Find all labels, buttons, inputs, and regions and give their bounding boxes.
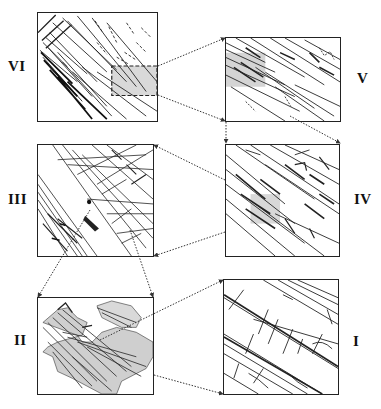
panel-label-vi: VI	[8, 58, 26, 75]
connector-vi-to-v-top	[158, 38, 225, 66]
panel-label-ii: II	[14, 332, 27, 349]
panel-label-i: I	[353, 333, 359, 350]
connector-ii-to-i-bottom	[154, 375, 223, 394]
marker-dot	[87, 200, 91, 204]
panel-label-iv: IV	[354, 191, 372, 208]
panel-ii-fracture-map	[37, 297, 154, 395]
panel-label-iii: III	[8, 191, 27, 208]
connector-vi-to-v-bottom	[158, 95, 225, 121]
panel-vi-fracture-map	[37, 12, 158, 122]
panel-i-fracture-map	[223, 279, 339, 395]
figure-stage: VI V III IV II I	[0, 0, 381, 409]
fracture-map-i-graphic	[224, 280, 338, 394]
connector-iv-to-iii-bottom	[154, 232, 225, 256]
fracture-map-vi-graphic	[38, 13, 157, 121]
fracture-map-iv-graphic	[226, 145, 339, 256]
fracture-map-v-graphic	[226, 38, 340, 121]
panel-iv-fracture-map	[225, 144, 340, 257]
fracture-map-iii-graphic	[38, 145, 153, 256]
fracture-map-ii-graphic	[38, 298, 153, 394]
connector-iv-to-iii-top	[154, 145, 225, 180]
panel-label-v: V	[357, 70, 368, 87]
panel-iii-fracture-map	[37, 144, 154, 257]
panel-v-fracture-map	[225, 37, 341, 122]
